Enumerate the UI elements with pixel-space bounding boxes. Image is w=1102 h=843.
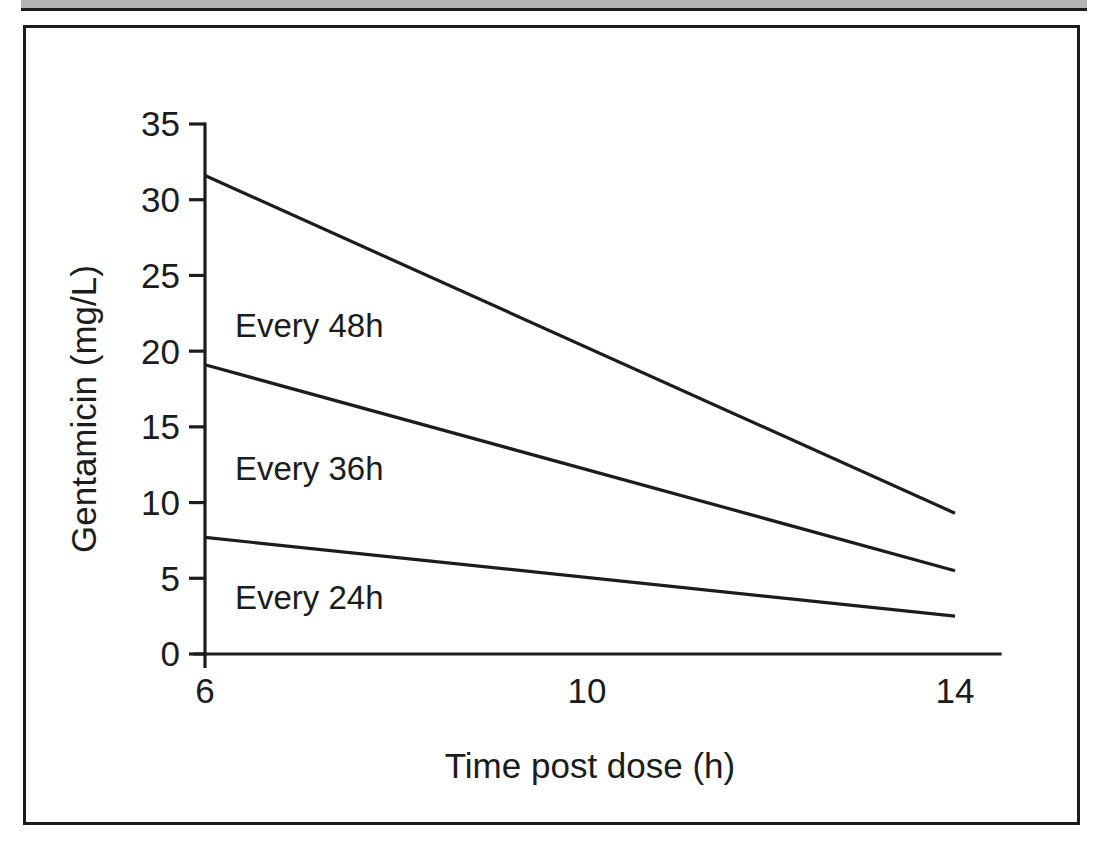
xtick-label-14: 14 <box>915 673 995 708</box>
series-label-every-36h: Every 36h <box>235 452 384 485</box>
ytick-label-10: 10 <box>108 485 180 520</box>
ytick-label-20: 20 <box>108 334 180 369</box>
xtick-label-10: 10 <box>547 673 627 708</box>
series-label-every-48h: Every 48h <box>235 309 384 342</box>
ytick-label-0: 0 <box>108 636 180 671</box>
y-axis-title: Gentamicin (mg/L) <box>66 265 101 553</box>
ytick-label-30: 30 <box>108 182 180 217</box>
ytick-label-25: 25 <box>108 258 180 293</box>
ytick-label-15: 15 <box>108 409 180 444</box>
xtick-label-6: 6 <box>165 673 245 708</box>
ytick-label-5: 5 <box>108 561 180 596</box>
series-label-every-24h: Every 24h <box>235 581 384 614</box>
x-axis-title: Time post dose (h) <box>400 748 780 783</box>
ytick-label-35: 35 <box>108 106 180 141</box>
scan-top-strip <box>21 0 1087 11</box>
